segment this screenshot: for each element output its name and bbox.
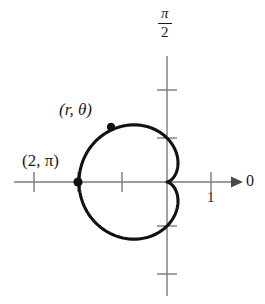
pi-over-two-denominator: 2 [158, 25, 172, 41]
polar-axis-arrowhead [231, 177, 243, 188]
pi-over-two-numerator: π [158, 6, 172, 22]
annotation-label-two-pi: (2, π) [22, 152, 59, 169]
polar-axis-label: 0 [246, 173, 254, 189]
x-tick-label-one: 1 [207, 190, 215, 205]
vertical-axis-label: π 2 [158, 6, 172, 41]
annotation-label-rtheta: (r, θ) [59, 101, 92, 118]
polar-graph-figure: π 2 0 1 (r, θ) (2, π) [0, 0, 265, 304]
point-marker-two-pi [73, 177, 82, 186]
point-marker-rtheta [107, 123, 115, 131]
